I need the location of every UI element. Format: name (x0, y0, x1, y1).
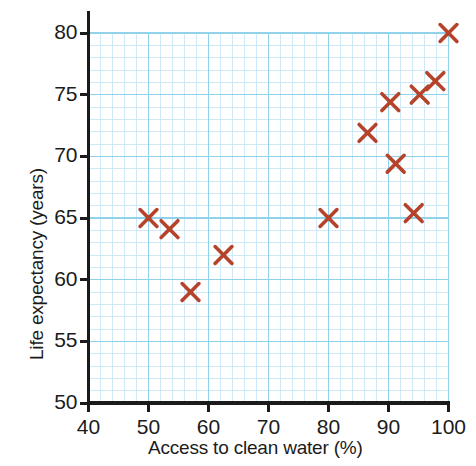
data-point (405, 205, 422, 222)
data-point (161, 221, 178, 238)
tick-marks (80, 33, 449, 412)
x-tick-label: 40 (66, 415, 112, 439)
x-tick-label: 100 (426, 415, 472, 439)
data-point (427, 73, 444, 90)
y-axis-title: Life expectancy (years) (26, 168, 48, 360)
x-tick-label: 80 (306, 415, 352, 439)
data-point (382, 94, 399, 111)
x-tick-label: 60 (186, 415, 232, 439)
y-tick-label: 50 (32, 390, 78, 414)
y-tick-label: 70 (32, 143, 78, 167)
major-gridlines (89, 33, 449, 403)
data-point (387, 155, 404, 172)
x-tick-label: 70 (246, 415, 292, 439)
y-tick-label: 80 (32, 20, 78, 44)
y-tick-label: 75 (32, 82, 78, 106)
data-point (359, 125, 376, 142)
scatter-chart: 50556065707580 405060708090100 Life expe… (0, 0, 476, 466)
x-tick-label: 50 (126, 415, 172, 439)
data-point-markers (140, 25, 457, 301)
x-axis-title: Access to clean water (%) (148, 437, 363, 459)
x-tick-label: 90 (366, 415, 412, 439)
